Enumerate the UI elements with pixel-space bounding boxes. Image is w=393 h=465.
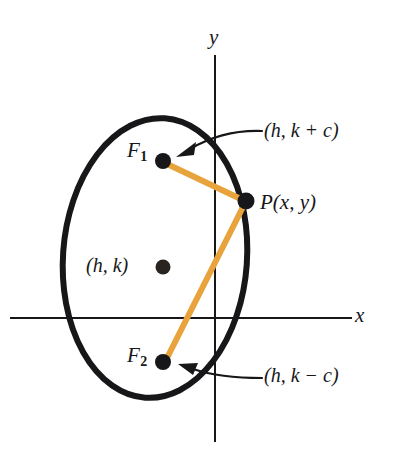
focus-lower-coordinate-label: (h, k − c) [264,365,339,385]
focus-label-f2: F2 [127,345,147,369]
leader-arrowhead-upper [176,142,196,157]
focus-point-f1 [155,153,171,169]
ellipse-figure: y x F1 F2 (h, k) P(x, y) (h, k + c) (h, … [0,0,393,465]
focus-label-f1-letter: F [127,138,140,162]
leader-arrowhead-lower [178,363,198,375]
focus-upper-coordinate-label: (h, k + c) [264,120,339,140]
segment-p-f2 [166,203,245,360]
point-p-marker [238,193,255,210]
focus-label-f2-letter: F [127,343,140,367]
ellipse-curve [53,112,256,404]
focus-point-f2 [155,354,171,370]
diagram-canvas [0,0,393,465]
focus-label-f1-subscript: 1 [140,149,148,164]
center-point-marker [156,260,171,275]
center-coordinate-label: (h, k) [86,255,128,275]
focus-label-f1: F1 [127,140,147,164]
focus-label-f2-subscript: 2 [140,354,148,369]
x-axis-label: x [355,305,364,326]
point-p-label: P(x, y) [260,192,316,213]
y-axis-label: y [209,27,218,48]
